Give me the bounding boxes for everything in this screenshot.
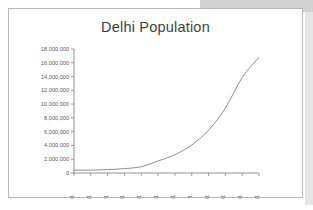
y-axis-tick-label: 10,000,000 [41, 101, 69, 107]
y-axis-tick-label: 8,000,000 [44, 115, 69, 121]
right-edge-band [305, 0, 313, 205]
y-axis-tick-label: 16,000,000 [41, 60, 69, 66]
x-axis-tick-label: 2011 [254, 195, 260, 199]
x-axis-tick-label: 1921 [103, 195, 109, 199]
x-axis-tick-label: 1981 [204, 195, 210, 199]
population-line-series [74, 57, 259, 170]
y-axis-tick-label: 2,000,000 [44, 156, 69, 162]
y-axis-tick-label: 0 [66, 170, 69, 176]
y-axis-tick-label: 6,000,000 [44, 129, 69, 135]
x-axis-tick-label: 1941 [136, 195, 142, 199]
y-axis-tick-label: 4,000,000 [44, 142, 69, 148]
y-axis-tick-label: 14,000,000 [41, 74, 69, 80]
slide-frame: Delhi Population 02,000,0004,000,0006,00… [8, 8, 303, 198]
line-chart-svg: 02,000,0004,000,0006,000,0008,000,00010,… [9, 9, 304, 199]
x-axis-tick-label: 1901 [69, 195, 75, 199]
y-axis-tick-label: 12,000,000 [41, 87, 69, 93]
x-axis-tick-label: 1931 [119, 195, 125, 199]
x-axis-tick-label: 1911 [86, 195, 92, 199]
x-axis-tick-label: 2001 [237, 195, 243, 199]
chart-plot-area: 02,000,0004,000,0006,000,0008,000,00010,… [9, 9, 304, 199]
x-axis-tick-label: 1971 [187, 195, 193, 199]
x-axis-tick-label: 1991 [220, 195, 226, 199]
y-axis-tick-label: 18,000,000 [41, 46, 69, 52]
x-axis-tick-label: 1951 [153, 195, 159, 199]
x-axis-tick-label: 1961 [170, 195, 176, 199]
